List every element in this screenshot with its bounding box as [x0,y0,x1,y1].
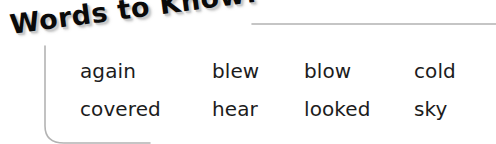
word-item: again [80,59,212,83]
word-item: blow [304,59,414,83]
word-item: cold [414,59,484,83]
word-row: covered hear looked sky [80,90,484,128]
word-item: hear [212,97,304,121]
banner: Words to Know! [8,0,260,42]
word-item: covered [80,97,212,121]
page-title: Words to Know! [8,0,260,42]
word-row: again blew blow cold [80,52,484,90]
word-item: sky [414,97,484,121]
word-item: looked [304,97,414,121]
word-item: blew [212,59,304,83]
words-to-know-card: Words to Know! again blew blow cold cove… [0,0,496,144]
word-list: again blew blow cold covered hear looked… [80,52,484,128]
